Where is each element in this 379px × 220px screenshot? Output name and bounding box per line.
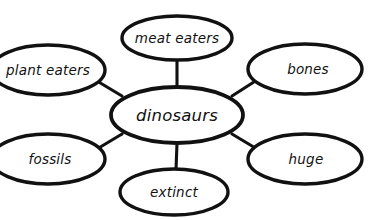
meat-eaters-label: meat eaters [135,30,219,46]
dinosaurs-label: dinosaurs [136,106,218,125]
concept-map-diagram: plant eaters fossils meat eaters extinct… [0,0,379,220]
concept-map-canvas: plant eaters fossils meat eaters extinct… [0,0,379,220]
node-bones[interactable]: bones [248,44,362,94]
edge-dinosaurs-extinct [176,143,177,170]
edge-dinosaurs-bones [232,80,257,96]
huge-label: huge [289,151,324,167]
node-plant-eaters[interactable]: plant eaters [0,45,105,95]
edge-dinosaurs-plant-eaters [97,81,122,96]
plant-eaters-label: plant eaters [5,62,90,78]
node-extinct[interactable]: extinct [120,169,228,215]
fossils-label: fossils [28,151,71,167]
extinct-label: extinct [150,184,199,200]
edge-dinosaurs-fossils [97,134,122,149]
node-huge[interactable]: huge [248,134,362,184]
node-fossils[interactable]: fossils [0,134,105,184]
node-dinosaurs[interactable]: dinosaurs [111,87,243,143]
bones-label: bones [287,61,329,77]
node-meat-eaters[interactable]: meat eaters [122,16,232,60]
